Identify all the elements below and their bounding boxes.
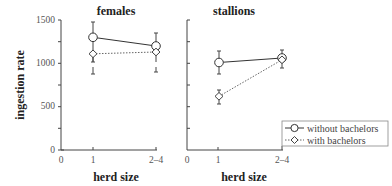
legend-item-without-bachelors: without bachelors: [307, 123, 378, 134]
x-tick-label: 1: [91, 155, 96, 165]
circle-marker: [215, 58, 224, 67]
x-tick-label: 1: [216, 155, 221, 165]
series-without-bachelors-line: [93, 37, 156, 46]
circle-marker: [89, 33, 98, 42]
panel-stallions: stallions 0 1 2–4 herd size: [185, 4, 290, 184]
x-tick-label: 2–4: [149, 155, 164, 165]
series-with-bachelors-line: [93, 52, 156, 54]
y-axis-label: ingestion rate: [13, 49, 27, 119]
panel-title-females: females: [97, 4, 136, 18]
circle-marker-icon: [291, 124, 298, 131]
x-tick-label: 0: [185, 155, 190, 165]
error-bars: [91, 22, 158, 74]
x-tick-label: 2–4: [275, 155, 290, 165]
y-tick-label: 0: [50, 145, 55, 155]
x-axis-label: herd size: [221, 170, 267, 184]
x-tick-label: 0: [59, 155, 64, 165]
legend: without bachelors with bachelors: [282, 121, 388, 146]
y-tick-label: 500: [41, 101, 56, 111]
y-tick-label: 1500: [36, 15, 55, 25]
diamond-marker: [89, 50, 97, 58]
panel-females: females 1500 1000 500 0 0 1 2–4 herd siz…: [36, 4, 163, 184]
y-tick-label: 1000: [36, 58, 55, 68]
panel-title-stallions: stallions: [213, 4, 255, 18]
x-axis-label: herd size: [93, 170, 139, 184]
series-with-bachelors-line: [219, 60, 282, 97]
legend-item-with-bachelors: with bachelors: [307, 135, 366, 146]
chart-figure: ingestion rate females 1500 1000 500 0 0…: [0, 0, 392, 186]
series-without-bachelors-line: [219, 58, 282, 63]
diamond-marker: [215, 93, 223, 101]
